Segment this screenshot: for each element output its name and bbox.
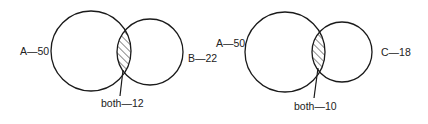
intersection-leader xyxy=(120,70,123,96)
label-c: C—18 xyxy=(381,46,411,58)
label-a: A—50 xyxy=(216,37,245,49)
venn-a-c: A—50 C—18 both—10 xyxy=(216,12,411,112)
venn-a-b: A—50 B—22 both—12 xyxy=(20,11,217,109)
label-a: A—50 xyxy=(20,45,49,57)
intersection-leader xyxy=(314,68,318,98)
label-both: both—12 xyxy=(101,97,144,109)
label-both: both—10 xyxy=(294,100,337,112)
label-b: B—22 xyxy=(188,52,217,64)
venn-diagrams: A—50 B—22 both—12 A—50 C—18 both—10 xyxy=(0,0,428,124)
